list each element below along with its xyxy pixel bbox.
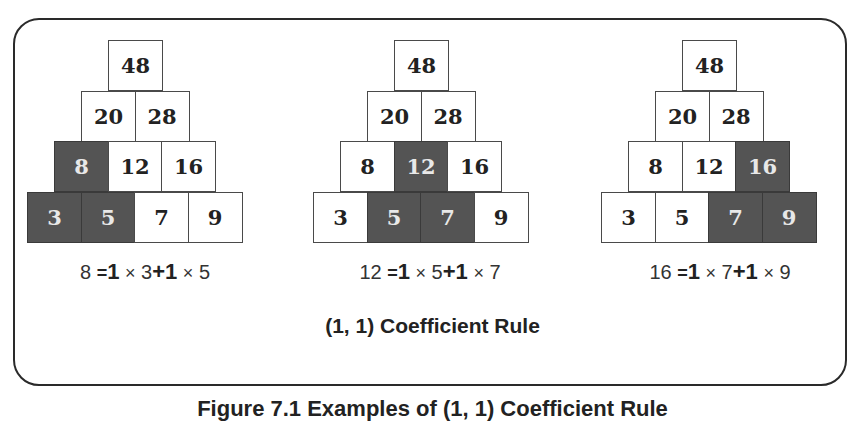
pyramid-cell: 8 [628, 141, 683, 192]
plus-sign: + [733, 259, 746, 284]
operand: 9 [779, 261, 790, 283]
formula-result: 8 [80, 261, 91, 283]
highlighted-cell: 8 [54, 141, 109, 192]
pyramid-cell: 48 [108, 40, 163, 91]
times-sign: × [125, 263, 136, 283]
plus-sign: + [443, 259, 456, 284]
pyramid-cell: 3 [601, 192, 656, 243]
formula-1: 8 =1 × 3+1 × 5 [15, 259, 275, 285]
pyramid-row-1: 48 [108, 40, 163, 91]
formula-result: 16 [649, 261, 671, 283]
pyramid-cell: 20 [81, 91, 136, 142]
number-pyramid-3: 482028812163579 [601, 40, 821, 244]
pyramid-cell: 9 [474, 192, 529, 243]
operand: 7 [489, 261, 500, 283]
pyramid-row-1: 48 [394, 40, 449, 91]
coefficient: 1 [165, 259, 177, 284]
highlighted-cell: 5 [367, 192, 422, 243]
formula-2: 12 =1 × 5+1 × 7 [300, 259, 560, 285]
figure-caption: Figure 7.1 Examples of (1, 1) Coefficien… [0, 396, 865, 422]
times-sign: × [473, 263, 484, 283]
pyramid-cell: 28 [135, 91, 190, 142]
operand: 7 [722, 261, 733, 283]
operand: 5 [432, 261, 443, 283]
times-sign: × [416, 263, 427, 283]
formula-3: 16 =1 × 7+1 × 9 [590, 259, 850, 285]
pyramid-cell: 48 [394, 40, 449, 91]
pyramid-cell: 3 [313, 192, 368, 243]
pyramid-cell: 28 [709, 91, 764, 142]
pyramid-row-3: 81216 [54, 141, 216, 192]
pyramid-cell: 16 [447, 141, 502, 192]
pyramid-row-4: 3579 [27, 192, 243, 243]
pyramid-cell: 28 [421, 91, 476, 142]
coefficient: 1 [398, 259, 410, 284]
times-sign: × [763, 263, 774, 283]
highlighted-cell: 3 [27, 192, 82, 243]
pyramid-cell: 7 [134, 192, 189, 243]
pyramid-cell: 20 [367, 91, 422, 142]
equals-sign: = [387, 263, 398, 283]
highlighted-cell: 12 [394, 141, 449, 192]
rule-title: (1, 1) Coefficient Rule [0, 314, 865, 338]
coefficient: 1 [688, 259, 700, 284]
pyramid-cell: 9 [188, 192, 243, 243]
pyramid-row-1: 48 [682, 40, 737, 91]
pyramid-cell: 5 [655, 192, 710, 243]
coefficient: 1 [456, 259, 468, 284]
formula-result: 12 [359, 261, 381, 283]
pyramid-row-2: 2028 [367, 91, 476, 142]
times-sign: × [183, 263, 194, 283]
pyramid-cell: 48 [682, 40, 737, 91]
pyramid-row-4: 3579 [313, 192, 529, 243]
operand: 5 [199, 261, 210, 283]
highlighted-cell: 5 [81, 192, 136, 243]
pyramid-row-2: 2028 [655, 91, 764, 142]
highlighted-cell: 7 [420, 192, 475, 243]
coefficient: 1 [746, 259, 758, 284]
pyramid-row-3: 81216 [340, 141, 502, 192]
operand: 3 [141, 261, 152, 283]
highlighted-cell: 7 [708, 192, 763, 243]
pyramid-cell: 12 [108, 141, 163, 192]
equals-sign: = [677, 263, 688, 283]
highlighted-cell: 16 [735, 141, 790, 192]
equals-sign: = [97, 263, 108, 283]
pyramid-cell: 8 [340, 141, 395, 192]
pyramid-row-4: 3579 [601, 192, 817, 243]
pyramid-row-2: 2028 [81, 91, 190, 142]
coefficient: 1 [107, 259, 119, 284]
times-sign: × [706, 263, 717, 283]
number-pyramid-2: 482028812163579 [313, 40, 533, 244]
pyramid-row-3: 81216 [628, 141, 790, 192]
pyramid-cell: 20 [655, 91, 710, 142]
plus-sign: + [152, 259, 165, 284]
pyramid-cell: 12 [682, 141, 737, 192]
number-pyramid-1: 482028812163579 [27, 40, 247, 244]
pyramid-cell: 16 [161, 141, 216, 192]
highlighted-cell: 9 [762, 192, 817, 243]
